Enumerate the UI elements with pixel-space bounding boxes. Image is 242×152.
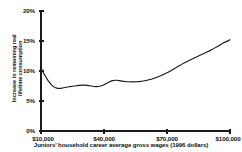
y-axis-title-line2: lifetime consumption (17, 20, 23, 116)
data-series-line (41, 40, 230, 89)
y-tick-label: 20% (9, 7, 35, 14)
chart-figure: 20%15%10%5%0% $10,000$40,000$70,000$100,… (0, 0, 242, 152)
line-chart-plot (0, 0, 242, 152)
axis-lines (41, 11, 230, 131)
x-axis-title: Juniors' household career average gross … (0, 141, 242, 149)
y-axis-title: Increase in remaining real lifetime cons… (11, 20, 24, 116)
y-tick-label: 0% (9, 127, 35, 134)
